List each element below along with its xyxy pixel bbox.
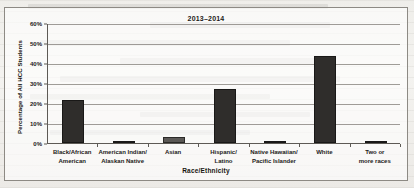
bar — [214, 89, 236, 143]
x-tick-label: American Indian/ Alaskan Native — [97, 148, 147, 165]
bar — [163, 137, 185, 143]
y-tick-label: 30% — [30, 81, 42, 87]
chart-title: 2013–2014 — [4, 15, 408, 22]
y-tick-label: 50% — [30, 41, 42, 47]
x-tick-mark — [299, 144, 300, 147]
x-tick-mark — [198, 144, 199, 147]
bar-chart: 2013–2014 Percentage of All HCC Students… — [4, 7, 408, 181]
x-tick-mark — [400, 144, 401, 147]
y-axis-tick-labels: 0%10%20%30%40%50%60% — [4, 24, 47, 144]
x-tick-mark — [350, 144, 351, 147]
bar — [113, 141, 135, 143]
bar — [264, 141, 286, 143]
x-tick-label: Two or more races — [350, 148, 400, 165]
bar — [365, 141, 387, 143]
y-tick-label: 40% — [30, 61, 42, 67]
x-tick-label: Black/African American — [47, 148, 97, 165]
plot-area — [47, 24, 400, 144]
x-tick-label: Asian — [148, 148, 198, 157]
x-tick-mark — [148, 144, 149, 147]
x-axis-title: Race/Ethnicity — [4, 167, 408, 174]
bar — [314, 56, 336, 143]
x-tick-mark — [249, 144, 250, 147]
x-tick-mark — [97, 144, 98, 147]
y-tick-label: 60% — [30, 21, 42, 27]
x-tick-label: Native Hawaiian/ Pacific Islander — [249, 148, 299, 165]
bar-series — [48, 24, 400, 143]
y-tick-label: 20% — [30, 101, 42, 107]
bar — [62, 100, 84, 143]
x-tick-label: Hispanic/ Latino — [198, 148, 248, 165]
scanned-page: 2013–2014 Percentage of All HCC Students… — [0, 0, 414, 188]
y-tick-label: 10% — [30, 121, 42, 127]
y-tick-label: 0% — [33, 141, 42, 147]
x-tick-label: White — [299, 148, 349, 157]
